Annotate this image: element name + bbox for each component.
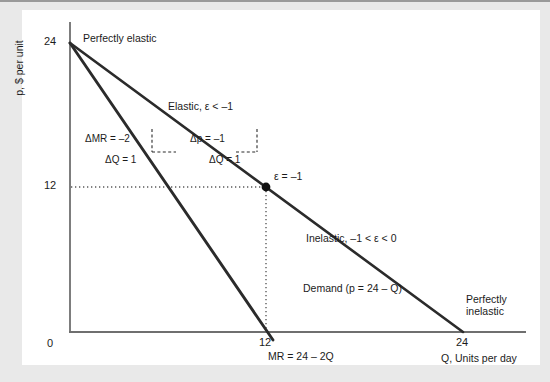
annotation-mr-curve: MR = 24 – 2Q <box>268 350 334 363</box>
annotation-demand-curve: Demand (p = 24 – Q) <box>303 282 402 295</box>
elasticity-demand-chart <box>0 0 550 382</box>
origin-tick-0: 0 <box>47 337 53 349</box>
annotation-delta-mr: ΔMR = –2 <box>85 133 130 146</box>
annotation-perfectly-elastic: Perfectly elastic <box>83 32 157 45</box>
annotation-perfectly-inelastic-line2: inelastic <box>466 305 504 318</box>
annotation-delta-p: Δp = –1 <box>190 133 225 146</box>
demand-slope-triangle <box>236 129 257 152</box>
marginal-revenue-curve-line <box>70 43 273 340</box>
y-tick-12: 12 <box>44 179 56 191</box>
y-tick-24: 24 <box>44 35 56 47</box>
y-axis-label: p, $ per unit <box>13 22 25 114</box>
annotation-unit-elastic-point: ε = –1 <box>274 170 302 183</box>
guide-lines-group <box>71 187 266 331</box>
x-tick-12: 12 <box>259 336 271 348</box>
annotation-inelastic-region: Inelastic, –1 < ε < 0 <box>306 232 397 245</box>
annotation-delta-q-right: ΔQ = 1 <box>209 154 240 167</box>
figure-canvas: p, $ per unit 24 12 0 12 24 Q, Units per… <box>0 0 550 382</box>
unit-elastic-point-marker <box>262 183 271 192</box>
mr-slope-triangle <box>152 129 176 152</box>
annotation-delta-q-left: ΔQ = 1 <box>105 154 136 167</box>
annotation-elastic-region: Elastic, ε < –1 <box>168 100 233 113</box>
x-tick-24: 24 <box>456 336 468 348</box>
x-axis-label: Q, Units per day <box>441 352 517 365</box>
